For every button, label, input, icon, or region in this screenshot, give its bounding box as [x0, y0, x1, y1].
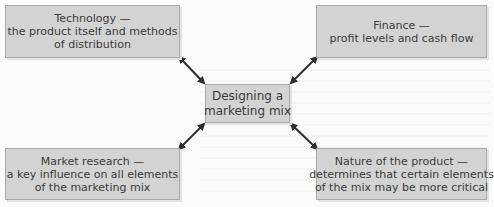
center-text: Designing a [212, 89, 283, 104]
arrow-bottom-left [182, 124, 204, 146]
arrow-bottom-right [291, 124, 314, 146]
node-text: determines that certain elements [309, 168, 494, 181]
node-title: Nature of the product — [335, 155, 468, 168]
arrow-top-right [291, 60, 314, 83]
node-market-research: Market research — a key influence on all… [5, 148, 180, 200]
node-text: the product itself and methods [7, 25, 177, 38]
node-text: profit levels and cash flow [330, 32, 474, 45]
node-text: of distribution [54, 38, 131, 51]
node-nature-of-product: Nature of the product — determines that … [316, 148, 487, 200]
node-text: of the mix may be more critical [315, 181, 488, 194]
center-text: marketing mix [204, 104, 291, 119]
node-designing-marketing-mix: Designing a marketing mix [205, 84, 290, 123]
node-technology: Technology — the product itself and meth… [5, 5, 180, 58]
node-title: Technology — [54, 12, 130, 25]
arrow-top-left [182, 60, 204, 83]
node-title: Finance — [373, 19, 430, 32]
node-text: a key influence on all elements [7, 168, 179, 181]
node-text: of the marketing mix [35, 181, 150, 194]
node-title: Market research — [41, 155, 144, 168]
node-finance: Finance — profit levels and cash flow [316, 5, 487, 58]
